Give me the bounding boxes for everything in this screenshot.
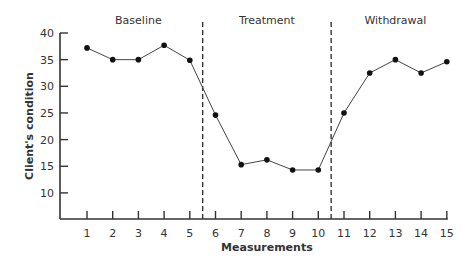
y-tick-label: 20 [40,134,54,147]
x-tick-label: 15 [440,227,454,240]
single-subject-design-chart: 10152025303540123456789101112131415Measu… [0,0,476,266]
data-point [367,70,373,76]
x-tick-label: 8 [263,227,270,240]
x-tick-label: 3 [135,227,142,240]
data-point [264,157,270,163]
x-tick-label: 4 [161,227,168,240]
x-tick-label: 5 [186,227,193,240]
x-tick-label: 9 [289,227,296,240]
data-point [341,110,347,116]
x-tick-label: 6 [212,227,219,240]
data-point [290,167,296,173]
y-axis-label: Client's condition [23,72,36,180]
y-tick-label: 35 [40,54,54,67]
y-tick-label: 15 [40,160,54,173]
data-point [84,45,90,51]
y-tick-label: 40 [40,27,54,40]
x-tick-label: 13 [388,227,402,240]
x-tick-label: 7 [238,227,245,240]
data-point [238,162,244,168]
data-point [213,112,219,118]
phase-label-withdrawal: Withdrawal [364,14,426,27]
data-point [161,42,167,48]
x-tick-label: 14 [414,227,428,240]
y-tick-label: 10 [40,187,54,200]
x-tick-label: 12 [363,227,377,240]
phase-label-baseline: Baseline [115,14,162,27]
data-point [110,57,116,63]
x-tick-label: 1 [84,227,91,240]
data-point [316,167,322,173]
x-axis-label: Measurements [221,241,313,254]
data-point [418,70,424,76]
data-line [87,45,447,170]
y-tick-label: 25 [40,107,54,120]
data-point [393,57,399,63]
x-tick-label: 10 [311,227,325,240]
x-tick-label: 2 [109,227,116,240]
y-tick-label: 30 [40,80,54,93]
x-tick-label: 11 [337,227,351,240]
data-point [187,57,193,63]
phase-label-treatment: Treatment [238,14,296,27]
data-point [444,59,450,65]
data-point [136,57,142,63]
